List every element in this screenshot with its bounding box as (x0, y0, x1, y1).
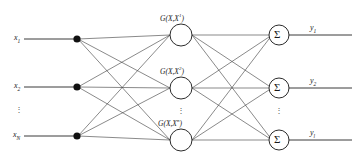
hidden-label-h1-close: ) (181, 14, 184, 23)
input-label-x2-sub: 2 (18, 86, 21, 92)
input-lines (24, 39, 76, 136)
input-layer-ellipsis: ··· (14, 106, 24, 113)
output-label-y1: y1 (310, 24, 316, 34)
edge-x2-h1 (78, 35, 170, 87)
input-fanout-dots (73, 35, 80, 139)
edges-hidden-to-output (192, 35, 272, 140)
hidden-nodes (170, 24, 192, 151)
output-label-yl-sub: l (314, 133, 316, 139)
sigma-icon-yl: Σ (274, 134, 280, 145)
edge-xN-hn (78, 136, 170, 140)
output-layer-ellipsis: ··· (274, 107, 284, 114)
edge-x1-h1 (78, 35, 170, 39)
hidden-label-hn: G(X,Xn) (158, 118, 182, 127)
output-label-y2-sub: 2 (314, 81, 317, 87)
network-graph (0, 0, 360, 161)
output-label-y1-sub: 1 (314, 28, 317, 34)
input-label-xN: xN (13, 131, 20, 141)
figure-canvas: Σ Σ Σ x1 x2 xN G(X,X1) G(X,X2) G(X,Xn) y… (0, 0, 360, 161)
edges-input-to-hidden (78, 35, 170, 140)
fanout-dot-x2 (73, 83, 80, 90)
output-label-yl: yl (310, 129, 315, 139)
hidden-label-h1-text: G(X,X (160, 14, 179, 23)
hidden-node-h1[interactable] (170, 24, 192, 46)
hidden-label-h1: G(X,X1) (160, 13, 184, 22)
output-lines (285, 35, 352, 140)
input-label-x1-sub: 1 (18, 38, 21, 44)
sigma-icon-y1: Σ (274, 29, 280, 40)
hidden-label-h2-close: ) (181, 67, 184, 76)
edge-x1-hn (78, 39, 170, 140)
fanout-dot-xN (73, 132, 80, 139)
input-label-xN-sub: N (17, 135, 21, 141)
fanout-dot-x1 (73, 35, 80, 42)
hidden-node-h2[interactable] (170, 77, 192, 99)
hidden-label-h2: G(X,X2) (160, 66, 184, 75)
edge-x2-h2 (78, 87, 170, 88)
hidden-node-hn[interactable] (170, 129, 192, 151)
input-label-x1: x1 (14, 34, 20, 44)
edge-xN-h1 (78, 35, 170, 136)
input-label-x2: x2 (14, 82, 20, 92)
edge-x1-h2 (78, 39, 170, 88)
hidden-label-hn-close: ) (179, 119, 182, 128)
output-label-y2: y2 (310, 77, 316, 87)
sigma-icon-y2: Σ (274, 82, 280, 93)
hidden-layer-ellipsis: ··· (176, 107, 186, 114)
hidden-label-h2-text: G(X,X (160, 67, 179, 76)
hidden-label-hn-text: G(X,X (158, 119, 177, 128)
